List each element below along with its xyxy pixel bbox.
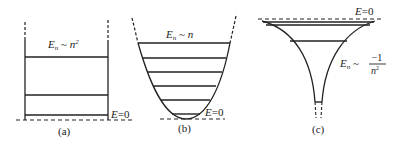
formula-a: En ~ n2 — [47, 38, 79, 52]
caption-a: (a) — [58, 125, 71, 138]
svg-text:En ~: En ~ — [339, 57, 359, 71]
formula-b: En ~ n — [165, 28, 194, 42]
formula-c: En ~ −1 n2 — [339, 52, 386, 76]
zero-label-b: E=0 — [204, 106, 224, 118]
zero-label-a: E=0 — [110, 108, 130, 120]
zero-label-c: E=0 — [354, 5, 374, 17]
caption-b: (b) — [178, 122, 191, 135]
energy-levels-diagram: En ~ n2 E=0 (a) En ~ n E=0 (b) E=0 En ~ … — [0, 0, 397, 145]
funnel-right — [322, 21, 375, 102]
parabola-dashed-right — [230, 16, 236, 43]
funnel-dashed-left — [315, 102, 316, 118]
funnel-left — [262, 21, 315, 102]
funnel-dashed-right — [321, 102, 322, 118]
caption-c: (c) — [312, 123, 325, 136]
svg-text:−1: −1 — [372, 52, 383, 63]
panel-a — [16, 20, 132, 120]
svg-text:n2: n2 — [371, 65, 379, 76]
panel-c — [258, 19, 382, 118]
parabola-dashed-left — [132, 18, 138, 43]
